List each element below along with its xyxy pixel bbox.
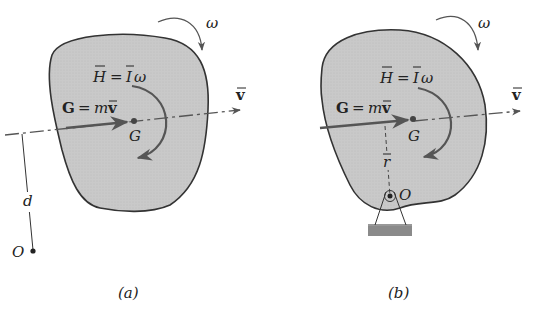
mass-center-label-b: G — [408, 127, 420, 145]
panel-b: ω H = I ω v G = m v G r — [320, 14, 522, 302]
point-o-label-a: O — [12, 243, 24, 261]
caption-a: (a) — [118, 284, 139, 302]
distance-label-a: d — [23, 192, 33, 210]
mass-center-a — [131, 118, 137, 124]
pivot-label-b: O — [399, 186, 411, 204]
rigid-body-a — [49, 34, 208, 211]
caption-b: (b) — [388, 284, 409, 302]
svg-text:m: m — [368, 99, 382, 117]
mass-center-label-a: G — [129, 127, 141, 145]
linear-momentum-label-a: G = m v — [62, 99, 118, 117]
omega-label-a: ω — [206, 14, 218, 32]
svg-text:H: H — [92, 68, 107, 86]
svg-text:I: I — [412, 69, 420, 87]
ground-base-b — [368, 226, 412, 236]
mass-center-b — [410, 116, 416, 122]
svg-text:=: = — [110, 68, 123, 86]
svg-text:v: v — [381, 99, 392, 117]
angular-momentum-label-a: H = I ω — [92, 66, 146, 86]
radius-label-b: r — [383, 153, 391, 171]
svg-text:=: = — [397, 69, 410, 87]
momentum-diagram: ω H = I ω v G = m v G d — [0, 0, 536, 312]
point-o-a — [30, 248, 35, 253]
svg-text:=: = — [352, 99, 365, 117]
velocity-label-b: v — [511, 86, 522, 104]
velocity-label-a: v — [235, 86, 246, 104]
svg-text:ω: ω — [134, 68, 146, 86]
svg-text:H: H — [379, 69, 394, 87]
svg-text:v: v — [107, 99, 118, 117]
svg-text:=: = — [78, 99, 91, 117]
panel-a: ω H = I ω v G = m v G d — [5, 14, 246, 302]
svg-text:ω: ω — [421, 69, 433, 87]
svg-text:G: G — [62, 99, 75, 117]
svg-text:m: m — [94, 99, 108, 117]
svg-text:I: I — [125, 68, 133, 86]
angular-momentum-label-b: H = I ω — [379, 67, 433, 87]
svg-text:G: G — [336, 99, 349, 117]
linear-momentum-label-b: G = m v — [336, 99, 392, 117]
omega-label-b: ω — [478, 14, 490, 32]
